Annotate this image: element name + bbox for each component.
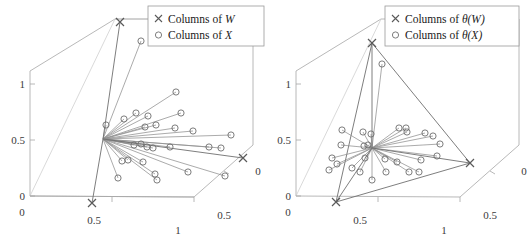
right-z-ticks xyxy=(296,84,301,196)
right-w-rays xyxy=(336,43,470,202)
figure-canvas: 1 0.5 0 0 0.5 1 0.5 0 xyxy=(0,0,529,249)
right-xtick-1: 1 xyxy=(441,224,447,236)
left-ztick-0: 0 xyxy=(20,190,26,202)
left-ztick-05: 0.5 xyxy=(11,134,25,146)
left-xtick-1: 1 xyxy=(175,224,181,236)
left-xtick-0: 0 xyxy=(19,206,25,218)
right-simplex-triangle xyxy=(336,43,470,202)
left-xtick-05: 0.5 xyxy=(87,214,101,226)
left-x-markers xyxy=(103,38,234,183)
left-x-ticks xyxy=(112,197,194,202)
left-legend: Columns of W Columns of X xyxy=(148,6,264,46)
right-legend: Columns of θ(W) Columns of θ(X) xyxy=(385,6,519,46)
right-w-markers xyxy=(332,39,474,206)
right-x-ticks xyxy=(378,197,460,202)
right-x-markers xyxy=(326,61,443,183)
right-ytick-05: 0.5 xyxy=(483,209,497,221)
left-legend-label-w: Columns of W xyxy=(168,13,236,25)
right-ztick-05: 0.5 xyxy=(277,134,291,146)
right-legend-label-w: Columns of θ(W) xyxy=(405,13,485,26)
right-xtick-0: 0 xyxy=(285,206,291,218)
figure-container: 1 0.5 0 0 0.5 1 0.5 0 xyxy=(0,0,529,249)
left-ytick-05: 0.5 xyxy=(217,209,231,221)
right-xtick-05: 0.5 xyxy=(353,214,367,226)
left-w-rays xyxy=(92,22,243,203)
right-panel: 1 0.5 0 0 0.5 1 0.5 0 xyxy=(277,6,527,236)
left-legend-label-x: Columns of X xyxy=(168,29,233,41)
left-panel: 1 0.5 0 0 0.5 1 0.5 0 xyxy=(11,6,264,236)
left-z-ticks xyxy=(30,84,35,196)
left-rays xyxy=(103,41,231,180)
right-y-ticks xyxy=(490,171,495,174)
left-ytick-0: 0 xyxy=(255,165,261,177)
right-ztick-0: 0 xyxy=(286,190,292,202)
right-legend-label-x: Columns of θ(X) xyxy=(405,29,482,42)
left-ztick-1: 1 xyxy=(20,78,26,90)
right-ztick-1: 1 xyxy=(286,78,292,90)
right-ytick-0: 0 xyxy=(521,165,527,177)
